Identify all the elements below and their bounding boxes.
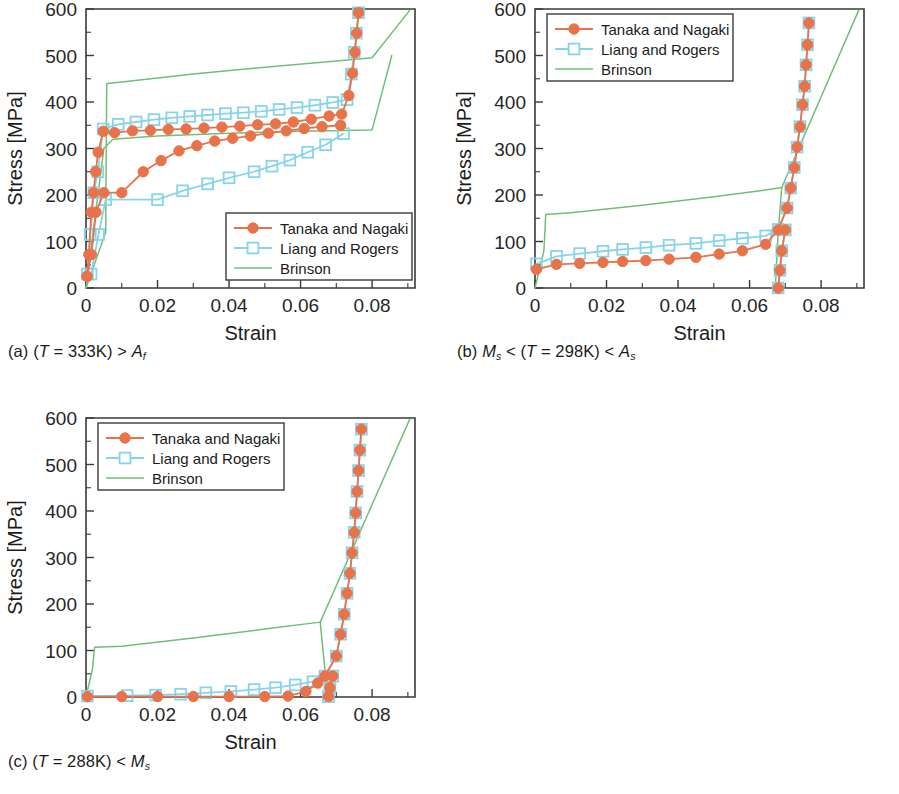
x-tick-label: 0.06 bbox=[282, 295, 319, 316]
caption-c-mid: = 288K) < bbox=[48, 752, 131, 770]
x-tick-label: 0 bbox=[530, 295, 541, 316]
data-point bbox=[347, 548, 357, 558]
data-point bbox=[99, 187, 109, 197]
x-tick-label: 0 bbox=[81, 704, 92, 725]
data-point bbox=[192, 141, 202, 151]
data-point bbox=[799, 81, 809, 91]
caption-b-mid: = 298K) < bbox=[536, 342, 619, 360]
y-axis-title: Stress [MPa] bbox=[4, 91, 26, 205]
x-tick-label: 0.08 bbox=[354, 295, 391, 316]
data-point bbox=[352, 28, 362, 38]
panel-c-caption: (c) (T = 288K) < Ms bbox=[8, 752, 150, 771]
legend-label: Brinson bbox=[601, 61, 652, 78]
data-point bbox=[156, 155, 166, 165]
data-point bbox=[795, 121, 805, 131]
data-point bbox=[641, 255, 651, 265]
data-point bbox=[210, 136, 220, 146]
y-tick-label: 600 bbox=[494, 0, 526, 20]
y-tick-label: 0 bbox=[515, 278, 526, 299]
data-point bbox=[598, 257, 608, 267]
x-tick-label: 0.04 bbox=[211, 295, 248, 316]
data-point bbox=[263, 128, 273, 138]
y-tick-label: 500 bbox=[45, 455, 77, 476]
y-tick-label: 200 bbox=[45, 594, 77, 615]
y-tick-label: 100 bbox=[45, 232, 77, 253]
data-point bbox=[353, 8, 363, 18]
x-axis-title: Strain bbox=[673, 322, 725, 344]
data-point bbox=[245, 131, 255, 141]
data-point bbox=[88, 187, 98, 197]
data-point bbox=[355, 445, 365, 455]
x-tick-label: 0.06 bbox=[731, 295, 768, 316]
caption-a-prefix: (a) ( bbox=[8, 342, 39, 360]
panel-a-chart: 010020030040050060000.020.040.060.08Stra… bbox=[0, 0, 450, 385]
data-point bbox=[801, 60, 811, 70]
data-point bbox=[227, 133, 237, 143]
data-point bbox=[342, 588, 352, 598]
y-tick-label: 600 bbox=[45, 0, 77, 20]
data-point bbox=[270, 119, 280, 129]
data-point bbox=[782, 203, 792, 213]
panel-b-caption: (b) Ms < (T = 298K) < As bbox=[457, 342, 635, 361]
data-point bbox=[714, 249, 724, 259]
y-axis-title: Stress [MPa] bbox=[453, 91, 475, 205]
data-point bbox=[317, 121, 327, 131]
sma-stress-strain-figure: 010020030040050060000.020.040.060.08Stra… bbox=[0, 0, 899, 794]
series-line bbox=[778, 230, 785, 288]
data-point bbox=[145, 125, 155, 135]
panel-c-chart: 010020030040050060000.020.040.060.08Stra… bbox=[0, 396, 450, 794]
legend-marker-open-square bbox=[569, 44, 580, 55]
data-point bbox=[344, 90, 354, 100]
caption-a-var-A: A bbox=[132, 342, 143, 360]
data-point bbox=[804, 18, 814, 28]
data-point bbox=[775, 265, 785, 275]
data-point bbox=[252, 120, 262, 130]
data-point bbox=[98, 126, 108, 136]
data-point bbox=[349, 527, 359, 537]
data-point bbox=[664, 254, 674, 264]
data-point bbox=[288, 117, 298, 127]
y-tick-label: 300 bbox=[45, 548, 77, 569]
y-tick-label: 500 bbox=[45, 46, 77, 67]
caption-c-var-M: M bbox=[131, 752, 145, 770]
data-point bbox=[785, 183, 795, 193]
data-point bbox=[127, 126, 137, 136]
y-tick-label: 0 bbox=[66, 278, 77, 299]
y-tick-label: 100 bbox=[494, 232, 526, 253]
x-tick-label: 0.04 bbox=[660, 295, 697, 316]
data-point bbox=[350, 508, 360, 518]
data-point bbox=[152, 691, 162, 701]
x-tick-label: 0 bbox=[81, 295, 92, 316]
data-point bbox=[90, 167, 100, 177]
data-point bbox=[181, 124, 191, 134]
data-point bbox=[224, 691, 234, 701]
data-point bbox=[82, 271, 92, 281]
caption-b-sub-s2: s bbox=[630, 350, 635, 362]
data-point bbox=[331, 651, 341, 661]
data-point bbox=[188, 691, 198, 701]
x-tick-label: 0.06 bbox=[282, 704, 319, 725]
x-axis-title: Strain bbox=[224, 731, 276, 753]
data-point bbox=[773, 283, 783, 293]
data-point bbox=[324, 111, 334, 121]
data-point bbox=[93, 147, 103, 157]
data-point bbox=[217, 122, 227, 132]
x-axis-title: Strain bbox=[224, 322, 276, 344]
x-tick-label: 0.08 bbox=[354, 704, 391, 725]
data-point bbox=[737, 246, 747, 256]
legend: Tanaka and NagakiLiang and RogersBrinson bbox=[98, 423, 284, 490]
data-point bbox=[235, 121, 245, 131]
legend-label: Liang and Rogers bbox=[601, 41, 719, 58]
y-tick-label: 200 bbox=[45, 185, 77, 206]
y-tick-label: 500 bbox=[494, 46, 526, 67]
data-point bbox=[797, 100, 807, 110]
data-point bbox=[356, 424, 366, 434]
caption-b-cmp: < ( bbox=[501, 342, 526, 360]
legend-label: Liang and Rogers bbox=[152, 450, 270, 467]
y-tick-label: 0 bbox=[66, 687, 77, 708]
data-point bbox=[299, 123, 309, 133]
y-tick-label: 400 bbox=[45, 92, 77, 113]
x-tick-label: 0.02 bbox=[139, 704, 176, 725]
legend-marker-open-square bbox=[248, 243, 259, 254]
legend-marker-filled-circle bbox=[569, 24, 579, 34]
